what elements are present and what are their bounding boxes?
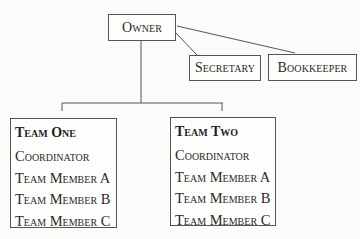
- secretary-label: Secretary: [195, 60, 255, 76]
- team-two-member: Team Member C: [175, 210, 275, 232]
- owner-label: Owner: [122, 20, 162, 36]
- team-one-member: Team Member C: [15, 211, 116, 233]
- team-one-title: Team One: [15, 125, 116, 141]
- team-one-node: Team One Coordinator Team Member A Team …: [10, 118, 117, 228]
- team-two-member: Team Member A: [175, 167, 275, 189]
- owner-node: Owner: [108, 14, 176, 41]
- team-one-member: Team Member B: [15, 189, 116, 211]
- team-two-member: Coordinator: [175, 145, 275, 167]
- team-two-node: Team Two Coordinator Team Member A Team …: [170, 117, 276, 226]
- team-one-member: Coordinator: [15, 146, 116, 168]
- bookkeeper-label: Bookkeeper: [278, 60, 348, 76]
- connector-owner-bookkeeper: [177, 26, 295, 53]
- bookkeeper-node: Bookkeeper: [268, 54, 357, 81]
- team-one-member: Team Member A: [15, 168, 116, 190]
- secretary-node: Secretary: [189, 55, 261, 81]
- team-two-title: Team Two: [175, 124, 275, 140]
- team-two-member: Team Member B: [175, 188, 275, 210]
- connector-owner-secretary: [176, 33, 197, 55]
